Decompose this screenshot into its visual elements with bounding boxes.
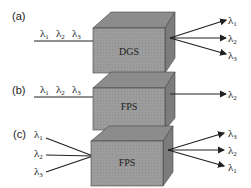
input-ray-3	[46, 156, 93, 172]
panel-a-label: (a)	[12, 10, 25, 22]
panel-c-label: (c)	[13, 128, 26, 140]
output-lambda-2: λ2	[228, 144, 237, 158]
diagram-canvas: (a) λ1 λ2 λ3 DGS λ1 λ2 λ3 (b) λ1 λ2 λ3 F…	[0, 0, 251, 188]
output-lambda-2: λ2	[228, 88, 237, 102]
device-label: FPS	[119, 157, 136, 168]
panel-b: (b) λ1 λ2 λ3 FPS λ2	[12, 72, 237, 130]
input-lambda-3: λ3	[34, 165, 43, 179]
input-lambda-2: λ2	[56, 27, 65, 41]
panel-c: (c) λ1 λ2 λ3 FPS λ3 λ2 λ1	[13, 126, 237, 186]
fps-box: FPS	[93, 72, 175, 130]
input-lambda-1: λ1	[40, 83, 49, 97]
input-lambda-1: λ1	[40, 27, 49, 41]
dgs-box: DGS	[93, 12, 175, 73]
input-ray-1	[46, 138, 93, 156]
input-lambda-2: λ2	[56, 83, 65, 97]
input-lambda-2: λ2	[34, 147, 43, 161]
panel-a: (a) λ1 λ2 λ3 DGS λ1 λ2 λ3	[12, 10, 237, 73]
output-lambda-2: λ2	[228, 32, 237, 46]
output-lambda-3: λ3	[228, 127, 237, 141]
input-lambda-3: λ3	[72, 27, 81, 41]
fps-box: FPS	[91, 126, 173, 186]
output-ray-1	[168, 133, 224, 150]
panel-b-label: (b)	[12, 84, 25, 96]
input-lambda-1: λ1	[34, 128, 43, 142]
output-ray-3	[168, 150, 224, 166]
output-lambda-1: λ1	[228, 14, 237, 28]
output-lambda-3: λ3	[228, 49, 237, 63]
input-lambda-3: λ3	[72, 83, 81, 97]
output-ray-1	[170, 20, 226, 38]
device-label: DGS	[119, 46, 139, 57]
device-label: FPS	[121, 101, 138, 112]
output-lambda-1: λ1	[228, 161, 237, 175]
input-ray-2	[46, 155, 93, 156]
output-ray-3	[170, 38, 226, 54]
